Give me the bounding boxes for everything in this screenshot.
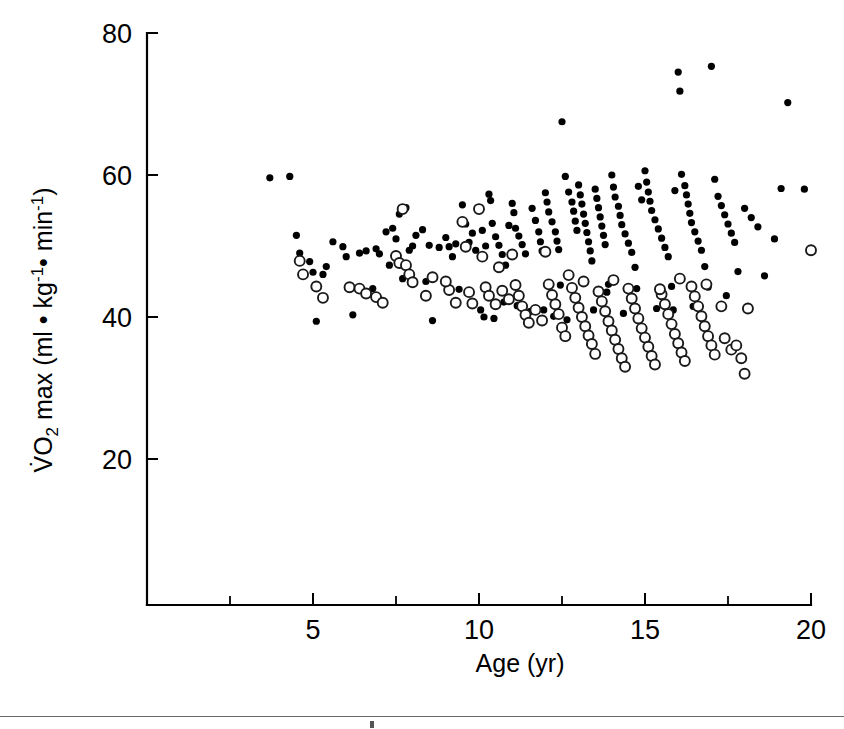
data-point (555, 246, 562, 253)
data-point (505, 222, 512, 229)
data-point (736, 353, 746, 363)
data-point (701, 279, 711, 289)
data-point (698, 247, 705, 254)
x-tick-label-10: 10 (464, 615, 494, 645)
data-point (552, 228, 559, 235)
data-point (519, 241, 526, 248)
data-point (293, 232, 300, 239)
data-point (298, 269, 308, 279)
data-point (660, 299, 670, 309)
data-point (386, 262, 393, 269)
data-point (553, 237, 560, 244)
x-tick-label-5: 5 (305, 615, 320, 645)
data-point (426, 242, 433, 249)
y-title-vdot: V̇ (29, 456, 57, 473)
data-point (286, 173, 293, 180)
data-point (741, 205, 748, 212)
scatter-plot-canvas: 20406080 5101520 Age (yr) V̇O2 max (ml •… (0, 0, 844, 729)
data-point (510, 209, 517, 216)
data-point (623, 284, 633, 294)
data-point (485, 191, 492, 198)
data-point (477, 252, 487, 262)
data-point (323, 263, 330, 270)
x-tick-label-20: 20 (796, 615, 826, 645)
data-point (419, 226, 426, 233)
data-point (721, 211, 728, 218)
data-point (593, 195, 600, 202)
y-title-bullet-2: • (29, 258, 57, 267)
data-point (595, 204, 602, 211)
data-point (318, 293, 328, 303)
data-point (610, 183, 617, 190)
data-point (784, 99, 791, 106)
y-title-min: min (29, 211, 57, 258)
data-point (570, 293, 580, 303)
data-point (686, 281, 696, 291)
data-point (675, 68, 682, 75)
y-title-max: max (ml (29, 324, 57, 427)
data-point (731, 239, 738, 246)
data-point (543, 198, 550, 205)
data-point (363, 247, 370, 254)
data-point (620, 362, 630, 372)
data-point (579, 277, 589, 287)
axis-spines (147, 33, 811, 605)
data-point (329, 238, 336, 245)
data-point (731, 340, 741, 350)
data-point (295, 256, 305, 266)
data-point (600, 306, 610, 316)
data-point (686, 210, 693, 217)
data-point (806, 245, 816, 255)
data-point (641, 167, 648, 174)
data-point (716, 301, 726, 311)
data-point (771, 235, 778, 242)
data-point (544, 279, 554, 289)
data-point (612, 193, 619, 200)
data-point (690, 291, 700, 301)
data-point (627, 294, 637, 304)
data-point (557, 281, 564, 288)
data-point (514, 291, 524, 301)
data-point (711, 176, 718, 183)
data-point (507, 250, 517, 260)
data-point (562, 173, 569, 180)
data-point (515, 232, 522, 239)
y-title-close-paren: ) (29, 187, 57, 195)
data-point (695, 237, 702, 244)
y-title-subscript-two: 2 (43, 427, 62, 436)
data-point (455, 286, 462, 293)
data-point (306, 258, 313, 265)
data-point (710, 350, 720, 360)
data-point (608, 275, 618, 285)
data-point (743, 303, 753, 313)
data-point (573, 227, 580, 234)
data-point (598, 223, 605, 230)
data-point (676, 88, 683, 95)
data-point (382, 228, 389, 235)
data-point (587, 247, 594, 254)
x-axis-title: Age (yr) (476, 649, 565, 677)
data-point (583, 229, 590, 236)
data-point (696, 311, 706, 321)
data-point (558, 118, 565, 125)
data-point (529, 205, 536, 212)
data-point (740, 369, 750, 379)
data-point (480, 313, 487, 320)
data-point (577, 191, 584, 198)
svg-text:V̇O2 max (ml • kg-1• min-1): V̇O2 max (ml • kg-1• min-1) (28, 187, 62, 472)
data-point (592, 186, 599, 193)
data-point (580, 210, 587, 217)
data-point (548, 218, 555, 225)
data-point (655, 284, 665, 294)
data-point (511, 280, 521, 290)
data-point (681, 182, 688, 189)
data-point (658, 235, 665, 242)
data-point (643, 179, 650, 186)
y-title-kg: kg (29, 282, 57, 315)
data-point (617, 212, 624, 219)
data-point (490, 315, 497, 322)
data-point (582, 220, 589, 227)
data-point (532, 217, 539, 224)
data-point (457, 217, 467, 227)
data-point (421, 291, 431, 301)
